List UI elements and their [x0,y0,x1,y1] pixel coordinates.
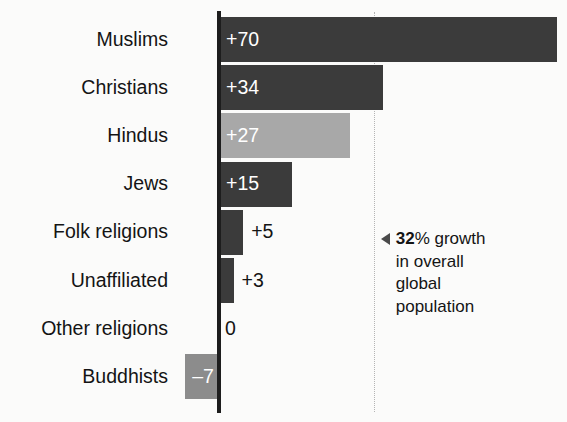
bar-value-label: +3 [242,271,264,291]
bar-value-label: +15 [226,174,259,194]
left-triangle-icon [381,233,390,245]
annotation-line-1: 32% growth [396,228,486,251]
bar-value-label: +5 [251,223,273,243]
bar-value-label: –7 [192,367,214,387]
bar-value-label: +34 [226,78,259,98]
bar-value-label: +27 [226,126,259,146]
religious-growth-bar-chart: MuslimsChristiansHindusJewsFolk religion… [0,0,567,422]
reference-annotation: 32% growth in overall global population [381,228,561,318]
bar [219,258,234,303]
zero-axis-line [217,11,221,413]
bar [219,17,557,62]
annotation-value: 32 [396,229,415,248]
bar-value-label: +70 [226,30,259,50]
annotation-line-1-rest: % growth [415,229,486,248]
annotation-text-block: 32% growth in overall global population [396,228,486,318]
bar [219,210,243,255]
bar-value-label: 0 [225,319,236,339]
annotation-line-2: in overall [396,251,486,274]
annotation-line-4: population [396,296,486,319]
annotation-first-line: 32% growth in overall global population [381,228,561,318]
annotation-line-3: global [396,273,486,296]
plot-area: +70+34+27+15+5+30–7 [0,0,567,422]
